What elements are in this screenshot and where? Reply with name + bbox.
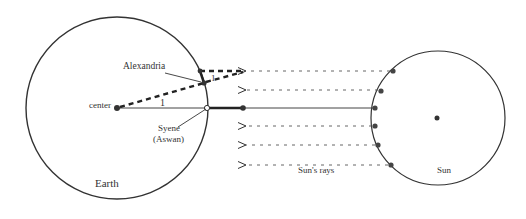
aswan-label: (Aswan) — [153, 134, 184, 144]
earth-label: Earth — [95, 177, 119, 189]
alexandria-leader — [165, 73, 201, 82]
eratosthenes-diagram: Alexandria center 1 1 Syene (Aswan) Eart… — [0, 0, 526, 219]
gnomon-tip-dot — [240, 105, 246, 111]
sun-center-dot — [435, 116, 440, 121]
sun-label: Sun — [437, 165, 452, 175]
sun-rays — [246, 71, 390, 165]
syene-leader — [178, 109, 206, 127]
suns-rays-label: Sun's rays — [298, 165, 335, 175]
angle-label-alexandria: 1 — [211, 73, 216, 83]
alexandria-dot — [201, 80, 206, 85]
center-label: center — [89, 100, 111, 110]
angle-label-center: 1 — [160, 97, 165, 108]
alexandria-label: Alexandria — [123, 61, 166, 71]
alexandria-gnomon-top-dot — [198, 69, 203, 74]
earth-center-dot — [114, 105, 120, 111]
syene-label: Syene — [158, 123, 180, 133]
sun-limb-dots — [372, 68, 395, 167]
